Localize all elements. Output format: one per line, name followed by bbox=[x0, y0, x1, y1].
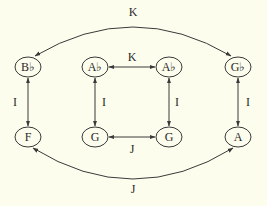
node-label: G♭ bbox=[231, 60, 246, 74]
edge-label-j-middle: J bbox=[130, 142, 135, 156]
transformation-diagram: K J K J I I I I B♭ A♭ A♭ G♭ F G G bbox=[0, 0, 267, 206]
edge-label-k-top: K bbox=[129, 5, 138, 19]
edge-label-i-col3: I bbox=[175, 95, 179, 109]
node-label: B♭ bbox=[21, 60, 35, 74]
node-label: A bbox=[234, 130, 243, 144]
node-label: G bbox=[165, 130, 174, 144]
node-label: A♭ bbox=[162, 60, 177, 74]
node-label: F bbox=[25, 130, 32, 144]
edge-label-i-col1: I bbox=[13, 95, 17, 109]
node-f: F bbox=[15, 127, 41, 147]
edge-label-j-bottom: J bbox=[131, 182, 136, 196]
node-label: G bbox=[91, 130, 100, 144]
node-label: A♭ bbox=[88, 60, 103, 74]
edge-label-i-col4: I bbox=[246, 95, 250, 109]
edge-label-k-middle: K bbox=[128, 50, 137, 64]
node-g-flat: G♭ bbox=[225, 57, 251, 77]
node-a-flat-right: A♭ bbox=[156, 57, 182, 77]
node-a-flat-left: A♭ bbox=[82, 57, 108, 77]
node-g-right: G bbox=[156, 127, 182, 147]
node-a: A bbox=[225, 127, 251, 147]
edge-label-i-col2: I bbox=[102, 95, 106, 109]
node-b-flat: B♭ bbox=[15, 57, 41, 77]
node-g-left: G bbox=[82, 127, 108, 147]
